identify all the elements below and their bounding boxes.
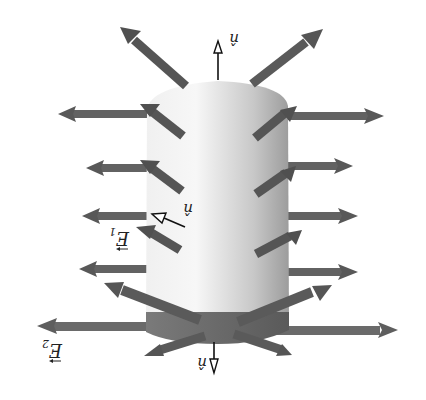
field-arrow xyxy=(86,160,150,176)
label-field-2: E 2 xyxy=(42,337,63,363)
diagram-canvas: n̂ n̂ n̂ E 1 E 2 xyxy=(0,0,426,400)
field-arrow xyxy=(82,208,150,224)
svg-text:n̂: n̂ xyxy=(229,30,239,48)
gauss-cylinder-diagram: Gaussian cylinder in electric field (ima… xyxy=(0,0,426,400)
svg-text:E: E xyxy=(116,228,130,249)
field-arrows-top xyxy=(120,27,323,86)
label-normal-side: n̂ xyxy=(183,200,193,218)
field-arrow xyxy=(79,261,148,277)
cylinder-cap-bottom xyxy=(146,312,289,344)
field-arrow xyxy=(288,108,384,124)
normal-vector-top xyxy=(214,41,222,80)
svg-text:n̂: n̂ xyxy=(197,354,207,372)
svg-text:2: 2 xyxy=(42,337,50,350)
field-arrow xyxy=(252,29,323,84)
field-arrow xyxy=(120,27,186,86)
field-arrow xyxy=(288,208,358,224)
field-arrow xyxy=(288,158,353,174)
label-field-1: E 1 xyxy=(109,225,130,251)
normal-vector-bottom xyxy=(210,342,218,373)
svg-text:1: 1 xyxy=(109,225,116,238)
label-normal-top: n̂ xyxy=(229,30,239,48)
label-normal-bottom: n̂ xyxy=(197,354,207,372)
svg-text:E: E xyxy=(49,340,63,361)
field-arrow xyxy=(58,106,158,122)
field-arrow xyxy=(288,264,358,280)
svg-text:n̂: n̂ xyxy=(183,200,193,218)
